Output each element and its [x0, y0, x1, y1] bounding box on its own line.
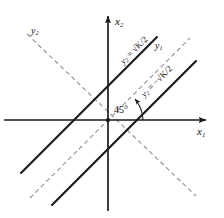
line-y2-negative — [52, 61, 196, 205]
line-y2-positive — [21, 37, 157, 173]
y2-axis-label: y2 — [31, 26, 39, 37]
origin-point — [106, 118, 110, 122]
y2-axis-line — [27, 34, 196, 196]
figure-canvas: x2 x1 y2 y1 y2 = √K/2 y2 = −√K/2 45° — [0, 0, 224, 218]
y1-axis-label: y1 — [155, 41, 163, 52]
x2-axis-label: x2 — [115, 16, 123, 28]
angle-label: 45° — [114, 105, 128, 115]
x1-axis-label: x1 — [197, 126, 205, 138]
y1-axis-line — [30, 38, 190, 198]
